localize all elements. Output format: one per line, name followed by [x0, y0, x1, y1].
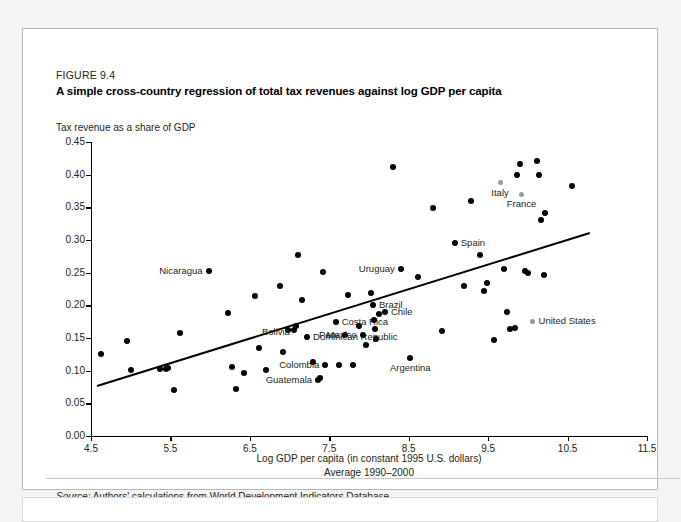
data-point	[514, 172, 520, 178]
point-label-chile: Chile	[391, 306, 413, 317]
data-point	[534, 158, 540, 164]
data-point	[295, 252, 301, 258]
data-point	[569, 183, 575, 189]
data-point-france	[519, 192, 524, 197]
y-tick	[86, 207, 91, 208]
data-point	[477, 252, 483, 258]
data-point	[165, 365, 171, 371]
x-tick	[329, 436, 330, 441]
y-tick	[86, 338, 91, 339]
point-label-uruguay: Uruguay	[359, 263, 401, 274]
data-point	[536, 172, 542, 178]
data-point-italy	[498, 180, 503, 185]
point-label-argentina: Argentina	[390, 362, 431, 373]
point-label-united-states: United States	[539, 315, 596, 326]
figure-number: FIGURE 9.4	[56, 69, 115, 81]
point-label-colombia: Colombia	[279, 359, 325, 370]
data-point	[390, 164, 396, 170]
regression-line	[97, 232, 590, 387]
x-axis-subtitle: Average 1990–2000	[91, 467, 647, 478]
source-divider	[46, 478, 680, 479]
data-point	[481, 288, 487, 294]
data-point	[372, 326, 378, 332]
y-tick-label: 0.30	[41, 234, 85, 245]
data-point-chile	[382, 309, 388, 315]
point-label-france: France	[507, 198, 537, 209]
y-tick-label: 0.35	[41, 201, 85, 212]
data-point-dominican-republic	[304, 334, 310, 340]
data-point	[317, 375, 323, 381]
x-tick	[250, 436, 251, 441]
y-tick-label: 0.20	[41, 299, 85, 310]
data-point	[501, 266, 507, 272]
y-tick-label: 0.40	[41, 169, 85, 180]
data-point	[299, 297, 305, 303]
scatter-plot-area: 0.000.050.100.150.200.250.300.350.400.45…	[91, 142, 647, 436]
page-bottom-strip	[22, 497, 658, 522]
data-point	[336, 362, 342, 368]
data-point	[252, 293, 258, 299]
point-label-costa-rica: Costa Rica	[342, 316, 388, 327]
y-tick	[86, 273, 91, 274]
x-tick	[568, 436, 569, 441]
data-point	[541, 272, 547, 278]
data-point	[225, 310, 231, 316]
data-point	[241, 370, 247, 376]
data-point-brazil	[370, 302, 376, 308]
x-axis-title: Log GDP per capita (in constant 1995 U.S…	[91, 453, 647, 464]
y-tick-label: 0.05	[41, 397, 85, 408]
data-point	[171, 387, 177, 393]
y-tick-label: 0.15	[41, 332, 85, 343]
data-point	[128, 367, 134, 373]
y-tick-label: 0.10	[41, 365, 85, 376]
data-point	[538, 217, 544, 223]
data-point	[512, 325, 518, 331]
data-point-spain	[452, 240, 458, 246]
data-point	[430, 205, 436, 211]
y-tick-label: 0.45	[41, 136, 85, 147]
data-point	[233, 386, 239, 392]
y-tick-label: 0.00	[41, 430, 85, 441]
figure-box: FIGURE 9.4 A simple cross-country regres…	[22, 28, 658, 490]
data-point	[280, 349, 286, 355]
data-point	[491, 337, 497, 343]
x-tick	[409, 436, 410, 441]
data-point	[517, 161, 523, 167]
data-point	[256, 345, 262, 351]
data-point-united-states	[530, 319, 535, 324]
y-tick	[86, 403, 91, 404]
data-point	[229, 364, 235, 370]
y-axis-title: Tax revenue as a share of GDP	[56, 122, 196, 133]
data-point	[468, 198, 474, 204]
y-axis-line	[91, 142, 92, 436]
point-label-bolivia: Bolivia	[262, 326, 296, 337]
data-point	[124, 338, 130, 344]
data-point	[98, 351, 104, 357]
data-point	[368, 290, 374, 296]
data-point-argentina	[407, 355, 413, 361]
data-point	[415, 274, 421, 280]
data-point	[177, 330, 183, 336]
data-point	[371, 317, 377, 323]
data-point	[461, 283, 467, 289]
y-tick	[86, 371, 91, 372]
point-label-nicaragua: Nicaragua	[159, 265, 208, 276]
data-point	[263, 367, 269, 373]
data-point	[484, 280, 490, 286]
data-point	[542, 210, 548, 216]
data-point	[504, 309, 510, 315]
data-point	[277, 283, 283, 289]
point-label-italy: Italy	[491, 187, 508, 198]
y-tick	[86, 175, 91, 176]
point-label-spain: Spain	[461, 237, 485, 248]
x-tick	[170, 436, 171, 441]
data-point	[350, 362, 356, 368]
figure-title: A simple cross-country regression of tot…	[56, 85, 502, 97]
screenshot-root: FIGURE 9.4 A simple cross-country regres…	[0, 0, 681, 522]
x-tick	[647, 436, 648, 441]
point-label-guatemala: Guatemala	[266, 374, 318, 385]
x-tick	[488, 436, 489, 441]
x-axis-line	[91, 436, 647, 437]
data-point-costa-rica	[333, 319, 339, 325]
y-tick	[86, 305, 91, 306]
